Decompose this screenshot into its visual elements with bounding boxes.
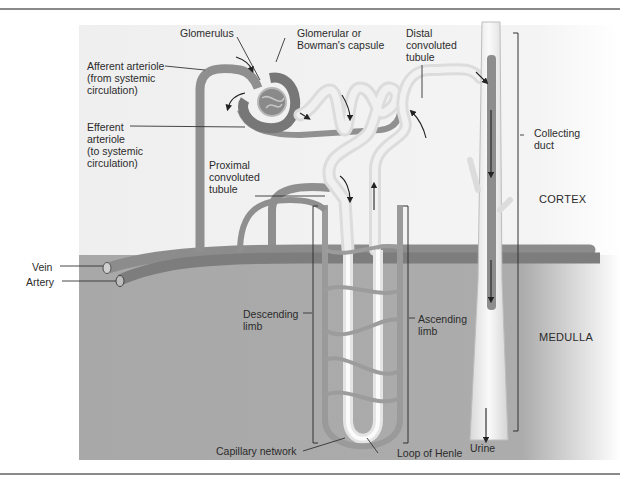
label-artery: Artery bbox=[26, 276, 54, 288]
label-distal-tubule: Distal convoluted tubule bbox=[406, 27, 457, 63]
region-label-medulla: MEDULLA bbox=[539, 331, 593, 343]
region-label-cortex: CORTEX bbox=[539, 193, 586, 205]
label-descending-limb: Descending limb bbox=[243, 308, 298, 332]
label-afferent-arteriole: Afferent arteriole (from systemic circul… bbox=[87, 60, 164, 96]
label-loop-of-henle: Loop of Henle bbox=[397, 447, 462, 459]
label-capillary-network: Capillary network bbox=[216, 445, 297, 457]
label-ascending-limb: Ascending limb bbox=[418, 313, 467, 337]
label-vein: Vein bbox=[32, 261, 52, 273]
label-glomerulus: Glomerulus bbox=[180, 27, 234, 39]
label-efferent-arteriole: Efferent arteriole (to systemic circulat… bbox=[87, 121, 143, 169]
label-urine: Urine bbox=[470, 442, 495, 454]
label-collecting-duct: Collecting duct bbox=[534, 127, 580, 151]
label-bowmans-capsule: Glomerular or Bowman's capsule bbox=[297, 27, 384, 51]
label-proximal-tubule: Proximal convoluted tubule bbox=[209, 159, 260, 195]
